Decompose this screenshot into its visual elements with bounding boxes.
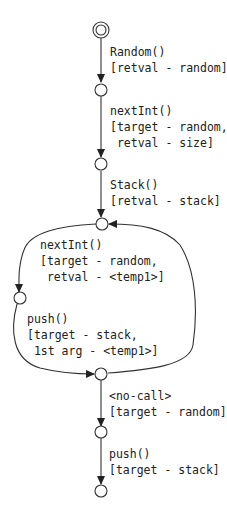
state-node (95, 368, 107, 380)
state-node (95, 426, 107, 438)
arrow-head (86, 370, 95, 378)
edge-label: [target - stack] (109, 463, 220, 477)
edge-label: nextInt() (40, 238, 102, 252)
state-node (95, 485, 107, 497)
start-node-inner (96, 25, 106, 35)
edge-label: [target - random, (110, 120, 227, 134)
edge-label: [target - stack, (27, 328, 138, 342)
edge-label: [target - random] (109, 405, 227, 419)
edge-label: retval - size] (110, 136, 214, 150)
state-node (95, 84, 107, 96)
edge-label: Random() (110, 45, 165, 59)
edge-label: retval - <temp1>] (40, 270, 165, 284)
arrow-head (97, 209, 105, 218)
edge-label: [target - random, (40, 254, 158, 268)
edge-label: push() (27, 312, 69, 326)
edge-label: [retval - stack] (110, 194, 221, 208)
edge-label: Stack() (110, 178, 158, 192)
arrow-head (97, 149, 105, 158)
edge-label: 1st arg - <temp1>] (27, 344, 159, 358)
edge-label: push() (109, 447, 151, 461)
state-diagram: Random() [retval - random] nextInt() [ta… (0, 0, 227, 517)
arrow-head (97, 476, 105, 485)
state-node (95, 158, 107, 170)
edge-label: nextInt() (110, 104, 172, 118)
state-node (14, 292, 26, 304)
edge-label: [retval - random] (110, 61, 227, 75)
state-node (96, 218, 108, 230)
arrow-head (97, 74, 105, 83)
edge-label: <no-call> (109, 389, 171, 403)
arrow-head (108, 220, 117, 228)
